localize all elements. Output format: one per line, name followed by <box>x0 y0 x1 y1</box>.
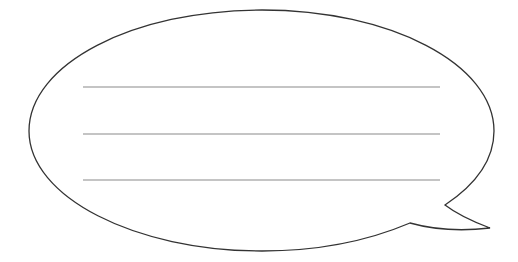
speech-bubble-outline <box>29 10 494 251</box>
speech-bubble <box>0 0 518 262</box>
